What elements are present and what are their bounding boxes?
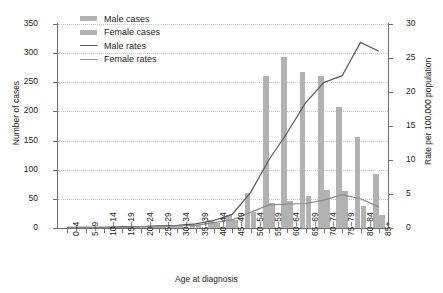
x-axis-tickmark xyxy=(159,229,160,233)
legend-item-label: Male cases xyxy=(104,14,150,24)
y-axis-right-tickmark xyxy=(388,92,393,93)
x-axis-tickmark xyxy=(269,229,270,233)
x-axis-tickmark xyxy=(104,229,105,233)
x-axis-tickmark xyxy=(86,229,87,233)
y-axis-left-tick-label: 100 xyxy=(12,164,38,174)
y-axis-left-tickmark xyxy=(53,111,58,112)
y-axis-right-tickmark xyxy=(388,58,393,59)
y-axis-right-tick-label: 0 xyxy=(406,222,432,232)
y-axis-left-tick-label: 250 xyxy=(12,76,38,86)
legend-bar-swatch-icon xyxy=(80,30,97,35)
x-axis-tick-label: 65–69 xyxy=(310,212,320,236)
legend-item-label: Female cases xyxy=(104,27,160,37)
y-axis-left-tickmark xyxy=(53,199,58,200)
x-axis-tick-label: 50–54 xyxy=(255,212,265,236)
x-axis-tickmark xyxy=(342,229,343,233)
x-axis-tickmark xyxy=(306,229,307,233)
x-axis-tick-label: 35–39 xyxy=(200,212,210,236)
x-axis-tick-label: 5–9 xyxy=(90,222,100,236)
y-axis-right-tickmark xyxy=(388,24,393,25)
x-axis-tick-label: 75–79 xyxy=(346,212,356,236)
x-axis-title: Age at diagnosis xyxy=(175,274,238,284)
x-axis-tick-label: 10–14 xyxy=(108,212,118,236)
y-axis-right-tick-label: 5 xyxy=(406,188,432,198)
legend-item: Female rates xyxy=(80,53,160,67)
y-axis-left-tick-label: 350 xyxy=(12,18,38,28)
x-axis-tick-label: 30–34 xyxy=(181,212,191,236)
y-axis-left-tickmark xyxy=(53,53,58,54)
x-axis-tickmark xyxy=(196,229,197,233)
legend-line-swatch-icon xyxy=(80,59,97,60)
y-axis-left-tickmark xyxy=(53,24,58,25)
x-axis-tick-label: 80–84 xyxy=(365,212,375,236)
x-axis-tickmark xyxy=(214,229,215,233)
y-axis-left-tick-label: 200 xyxy=(12,105,38,115)
x-axis-tickmark xyxy=(122,229,123,233)
x-axis-tickmark xyxy=(177,229,178,233)
y-axis-left-tick-label: 150 xyxy=(12,135,38,145)
line-male-rates xyxy=(67,42,379,227)
x-axis-tickmark xyxy=(287,229,288,233)
x-axis-tickmark xyxy=(251,229,252,233)
y-axis-right-tick-label: 30 xyxy=(406,18,432,28)
legend-bar-swatch-icon xyxy=(80,16,97,21)
y-axis-right-tick-label: 25 xyxy=(406,52,432,62)
y-axis-left-tick-label: 300 xyxy=(12,47,38,57)
y-axis-left-tick-label: 0 xyxy=(12,222,38,232)
y-axis-right-tickmark xyxy=(388,126,393,127)
y-axis-left-tickmark xyxy=(53,228,58,229)
legend-item-label: Male rates xyxy=(104,41,146,51)
y-axis-right-tick-label: 10 xyxy=(406,154,432,164)
y-axis-right-ticks: 051015202530 xyxy=(406,0,436,293)
x-axis-tick-label: 70–74 xyxy=(328,212,338,236)
x-axis-tickmark xyxy=(67,229,68,233)
x-axis-tick-label: 45–49 xyxy=(236,212,246,236)
x-axis-tick-label: 15–19 xyxy=(126,212,136,236)
y-axis-right-tickmark xyxy=(388,194,393,195)
y-axis-right-tick-label: 15 xyxy=(406,120,432,130)
legend-item: Male rates xyxy=(80,39,160,53)
y-axis-left-tickmark xyxy=(53,170,58,171)
x-axis-tick-label: 20–24 xyxy=(145,212,155,236)
x-axis-tick-label: 0–4 xyxy=(71,222,81,236)
y-axis-left-tickmark xyxy=(53,141,58,142)
legend-item-label: Female rates xyxy=(104,54,157,64)
x-axis-tickmark xyxy=(141,229,142,233)
chart-legend: Male casesFemale casesMale ratesFemale r… xyxy=(80,12,160,66)
x-axis-tickmark xyxy=(232,229,233,233)
y-axis-right-tick-label: 20 xyxy=(406,86,432,96)
x-axis-tick-label: 25–29 xyxy=(163,212,173,236)
y-axis-left-ticks: 050100150200250300350 xyxy=(12,0,38,293)
chart-container: Number of cases Rate per 100,000 populat… xyxy=(0,0,443,293)
y-axis-left-tickmark xyxy=(53,82,58,83)
x-axis-tickmark xyxy=(324,229,325,233)
legend-item: Male cases xyxy=(80,12,160,26)
y-axis-right-tickmark xyxy=(388,228,393,229)
legend-line-swatch-icon xyxy=(80,45,97,46)
y-axis-right-tickmark xyxy=(388,160,393,161)
x-axis-tick-label: 55–59 xyxy=(273,212,283,236)
y-axis-left-tick-label: 50 xyxy=(12,193,38,203)
legend-item: Female cases xyxy=(80,26,160,40)
x-axis-tick-label: 40–44 xyxy=(218,212,228,236)
x-axis-tickmark xyxy=(361,229,362,233)
x-axis-tick-label: 60–64 xyxy=(291,212,301,236)
x-axis-tickmark xyxy=(379,229,380,233)
